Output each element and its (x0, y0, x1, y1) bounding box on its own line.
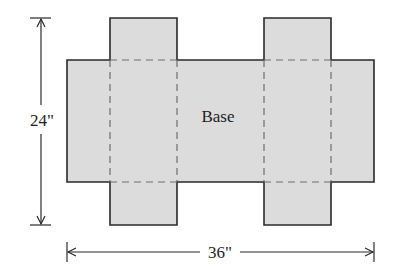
base-label: Base (201, 107, 234, 126)
width-label: 36" (208, 243, 232, 262)
height-label: 24" (30, 111, 54, 130)
box-net-diagram: Base 24" 36" (0, 0, 396, 277)
